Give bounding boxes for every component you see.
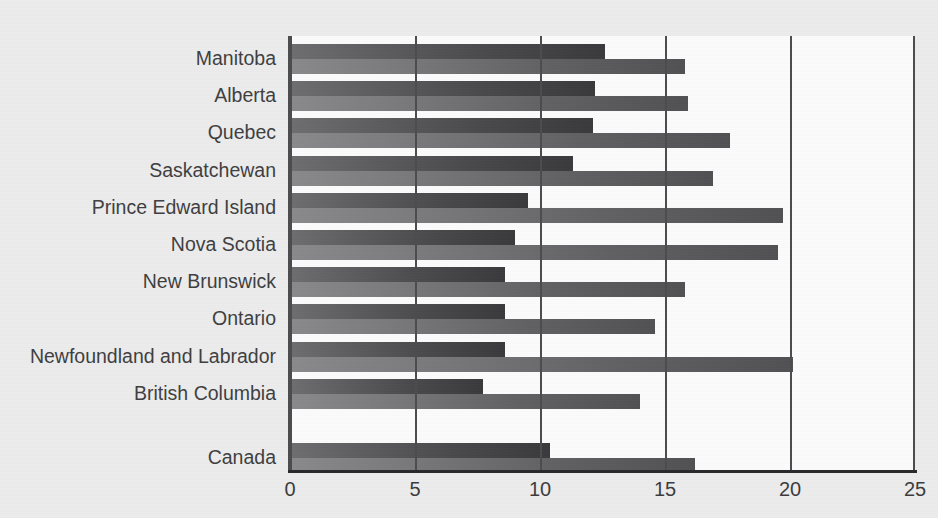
bar-series-2 [290, 245, 778, 260]
y-axis-line [288, 36, 290, 472]
gridline-20 [790, 36, 792, 472]
category-label: Manitoba [0, 47, 276, 70]
bar-series-1 [290, 44, 605, 59]
x-tick-label: 10 [529, 478, 551, 501]
bar-series-2 [290, 59, 685, 74]
category-label: Alberta [0, 84, 276, 107]
category-label: Canada [0, 446, 276, 469]
bar-series-2 [290, 96, 688, 111]
bar-series-1 [290, 81, 595, 96]
x-tick-label: 20 [779, 478, 801, 501]
bar-series-1 [290, 267, 505, 282]
category-label: Saskatchewan [0, 159, 276, 182]
gridline-5 [415, 36, 417, 472]
gridline-25 [913, 36, 915, 472]
bar-series-1 [290, 342, 505, 357]
bar-series-1 [290, 118, 593, 133]
bar-series-1 [290, 379, 483, 394]
bar-series-2 [290, 319, 655, 334]
bar-series-2 [290, 133, 730, 148]
x-tick-label: 0 [284, 478, 295, 501]
bar-series-1 [290, 230, 515, 245]
bar-series-1 [290, 156, 573, 171]
category-label: Newfoundland and Labrador [0, 345, 276, 368]
x-axis-line [288, 470, 917, 473]
gridline-0 [290, 36, 292, 472]
bar-series-2 [290, 282, 685, 297]
bar-series-1 [290, 193, 528, 208]
bar-series-2 [290, 208, 783, 223]
category-label: Ontario [0, 307, 276, 330]
bar-chart: ManitobaAlbertaQuebecSaskatchewanPrince … [0, 0, 938, 518]
category-label: Prince Edward Island [0, 196, 276, 219]
bar-series-1 [290, 304, 505, 319]
x-tick-label: 15 [654, 478, 676, 501]
bar-series-2 [290, 394, 640, 409]
category-label: Quebec [0, 121, 276, 144]
gridline-15 [665, 36, 667, 472]
bar-series-2 [290, 171, 713, 186]
category-label: Nova Scotia [0, 233, 276, 256]
x-tick-label: 5 [409, 478, 420, 501]
category-label: New Brunswick [0, 270, 276, 293]
bar-series-1 [290, 443, 550, 458]
x-tick-label: 25 [904, 478, 926, 501]
gridline-10 [540, 36, 542, 472]
category-label: British Columbia [0, 382, 276, 405]
